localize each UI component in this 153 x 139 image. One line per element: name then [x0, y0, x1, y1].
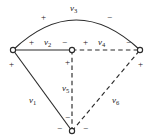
polarity-v5-minus: −	[65, 113, 70, 122]
node-bottom	[69, 128, 74, 133]
edge-label-v5-sub: 5	[66, 87, 69, 94]
polarity-v4-plus: +	[83, 38, 88, 47]
edge-label-v3: v3	[70, 4, 77, 13]
edge-label-v5: v5	[62, 84, 69, 93]
polarity-v2-plus: +	[29, 38, 34, 47]
edge-label-v2-sub: 2	[48, 41, 51, 48]
edge-label-v4: v4	[98, 38, 105, 47]
edge-label-v6-sub: 6	[116, 99, 119, 106]
polarity-v6-plus: +	[138, 60, 143, 69]
polarity-v1-minus: −	[57, 124, 62, 133]
polarity-v5-plus: +	[65, 58, 70, 67]
graph-canvas	[0, 0, 153, 139]
node-middle	[69, 47, 74, 52]
polarity-v3-plus: +	[41, 13, 46, 22]
edge-label-v2: v2	[44, 38, 51, 47]
edge-label-v6: v6	[112, 96, 119, 105]
polarity-v4-minus: −	[126, 38, 131, 47]
polarity-v2-minus: −	[62, 38, 67, 47]
graph-diagram: v1 v2 v3 v4 v5 v6 + − + − + − + + + − − …	[0, 0, 153, 139]
polarity-v1-plus: +	[9, 60, 14, 69]
edge-label-v1: v1	[29, 96, 36, 105]
edge-v6	[72, 50, 140, 131]
polarity-v6-minus: −	[83, 124, 88, 133]
node-right	[137, 47, 142, 52]
node-left	[10, 47, 15, 52]
polarity-v3-minus: −	[107, 13, 112, 22]
edge-label-v3-sub: 3	[74, 7, 77, 14]
edge-label-v1-sub: 1	[33, 99, 36, 106]
edge-label-v4-sub: 4	[102, 41, 105, 48]
